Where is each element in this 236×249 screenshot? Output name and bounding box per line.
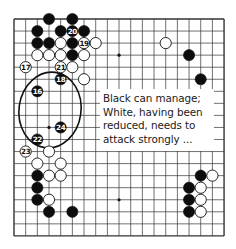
black-stone xyxy=(195,74,206,85)
black-stone-20: 20 xyxy=(67,25,78,36)
black-stone xyxy=(67,13,78,24)
star-point xyxy=(117,198,120,201)
white-stone xyxy=(55,170,66,181)
move-number: 22 xyxy=(33,135,43,144)
white-stone xyxy=(160,38,171,49)
move-number: 16 xyxy=(33,87,43,96)
callout-line-2: White, having been xyxy=(103,106,214,120)
black-stone xyxy=(78,25,89,36)
black-stone xyxy=(32,170,43,181)
black-stone xyxy=(67,38,78,49)
black-stone xyxy=(32,194,43,205)
white-stone xyxy=(78,74,89,85)
white-stone xyxy=(90,38,101,49)
callout-line-1: Black can manage; xyxy=(103,92,214,106)
white-stone xyxy=(195,194,206,205)
black-stone xyxy=(183,194,194,205)
white-stone-21: 21 xyxy=(55,62,66,73)
move-number: 19 xyxy=(79,39,89,48)
move-number: 18 xyxy=(56,75,66,84)
move-number: 21 xyxy=(56,63,66,72)
white-stone xyxy=(195,182,206,193)
black-stone xyxy=(32,38,43,49)
black-stone xyxy=(43,206,54,217)
white-stone xyxy=(55,50,66,61)
white-stone xyxy=(43,50,54,61)
white-stone xyxy=(32,50,43,61)
callout-line-3: reduced, needs to xyxy=(103,119,214,133)
white-stone-17: 17 xyxy=(20,62,31,73)
move-number: 24 xyxy=(56,123,66,132)
white-stone xyxy=(195,206,206,217)
black-stone-22: 22 xyxy=(32,134,43,145)
black-stone xyxy=(43,13,54,24)
white-stone-19: 19 xyxy=(78,38,89,49)
white-stone xyxy=(43,170,54,181)
white-stone xyxy=(55,158,66,169)
white-stone xyxy=(43,146,54,157)
black-stone-24: 24 xyxy=(55,122,66,133)
move-number: 23 xyxy=(21,147,31,156)
white-stone-23: 23 xyxy=(20,146,31,157)
black-stone xyxy=(67,50,78,61)
white-stone xyxy=(207,170,218,181)
black-stone xyxy=(32,25,43,36)
black-stone xyxy=(195,170,206,181)
go-board-diagram: 201917211816242223 Black can manage; Whi… xyxy=(0,0,236,249)
black-stone-16: 16 xyxy=(32,86,43,97)
black-stone xyxy=(43,38,54,49)
white-stone xyxy=(32,158,43,169)
white-stone xyxy=(78,50,89,61)
star-point xyxy=(117,54,120,57)
move-number: 17 xyxy=(21,63,31,72)
white-stone xyxy=(43,194,54,205)
black-stone xyxy=(67,206,78,217)
move-number: 20 xyxy=(68,27,78,36)
black-stone xyxy=(183,206,194,217)
white-stone xyxy=(55,38,66,49)
black-stone xyxy=(183,50,194,61)
callout-line-4: attack strongly ... xyxy=(103,133,214,147)
black-stone xyxy=(32,182,43,193)
black-stone-18: 18 xyxy=(55,74,66,85)
black-stone xyxy=(55,25,66,36)
black-stone xyxy=(183,182,194,193)
star-point xyxy=(47,126,50,129)
commentary-callout: Black can manage; White, having been red… xyxy=(100,89,214,151)
white-stone xyxy=(67,62,78,73)
